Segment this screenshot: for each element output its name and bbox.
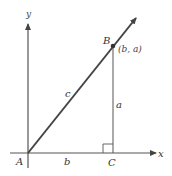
- hypotenuse-ray: [28, 18, 136, 153]
- point-b-dot: [111, 44, 116, 49]
- side-c-label: c: [65, 88, 71, 99]
- point-b-label: B: [102, 35, 110, 46]
- side-a-label: a: [116, 99, 122, 110]
- x-axis-label: x: [158, 148, 164, 159]
- side-b-label: b: [64, 156, 70, 167]
- point-a-label: A: [15, 156, 23, 167]
- point-c-label: C: [108, 157, 116, 168]
- point-b-coords: (b, a): [118, 44, 142, 54]
- right-angle-marker: [103, 144, 113, 153]
- right-triangle-diagram: y x B (b, a) c a b A C: [0, 0, 172, 176]
- y-axis-label: y: [25, 9, 32, 19]
